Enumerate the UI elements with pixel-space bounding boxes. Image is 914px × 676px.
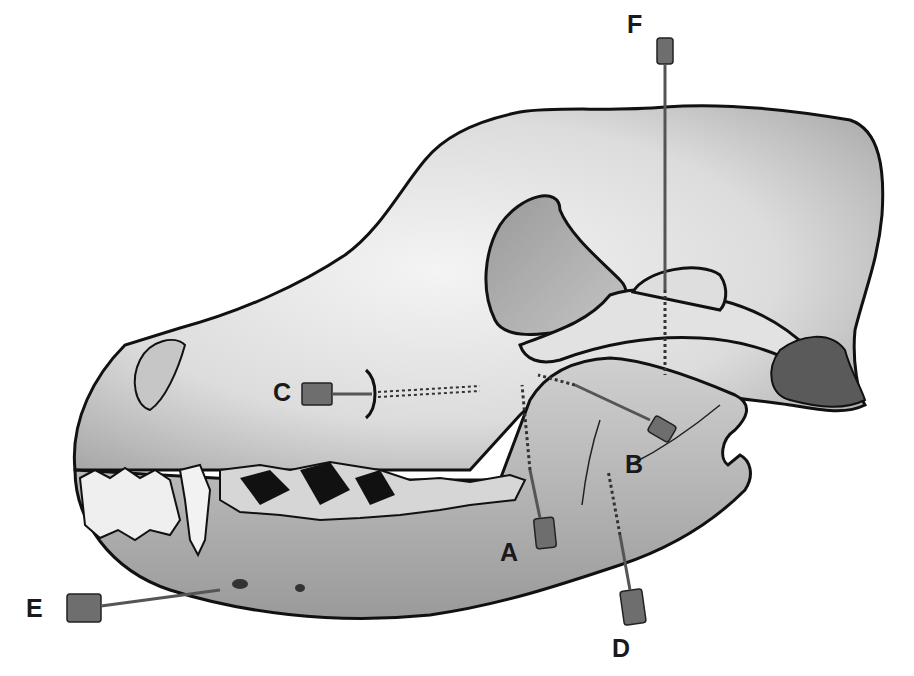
mental-foramen-1 (232, 579, 248, 589)
label-b: B (625, 452, 643, 477)
skull-diagram (0, 0, 914, 676)
label-e: E (26, 596, 43, 621)
label-c: C (273, 380, 291, 405)
skull-cranium (74, 106, 882, 470)
label-f: F (627, 12, 642, 37)
mental-foramen-2 (295, 584, 305, 592)
label-a: A (500, 540, 518, 565)
label-d: D (612, 636, 630, 661)
